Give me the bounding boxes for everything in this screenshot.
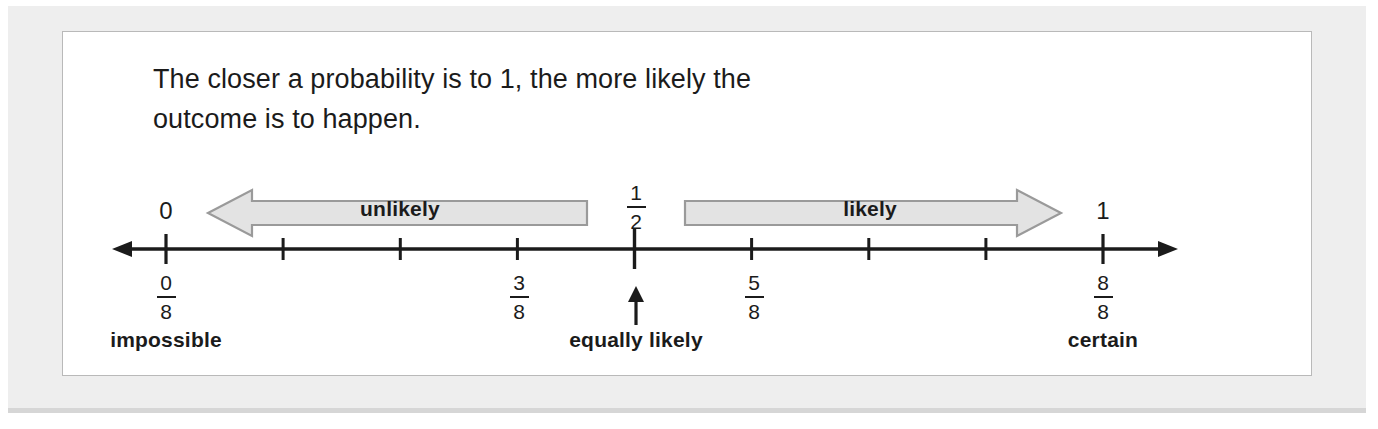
number-line-axis [110, 225, 1180, 273]
fraction-bar [1094, 296, 1113, 298]
axis-fraction-0-8: 0 8 [136, 272, 196, 322]
diagram-stage: unlikely likely 0 1 1 2 [0, 0, 1378, 429]
fraction-denominator: 8 [136, 301, 196, 322]
fraction-denominator: 8 [489, 301, 549, 322]
unlikely-band-label: unlikely [300, 197, 500, 221]
fraction-numerator: 3 [489, 272, 549, 294]
likely-band-label: likely [770, 197, 970, 221]
caption-equally-likely: equally likely [536, 328, 736, 352]
axis-fraction-8-8: 8 8 [1073, 272, 1133, 322]
fraction-numerator: 0 [136, 272, 196, 294]
fraction-numerator: 5 [724, 272, 784, 294]
probability-number-line-figure: The closer a probability is to 1, the mo… [0, 0, 1378, 429]
right-arrowhead-icon [1158, 241, 1178, 257]
up-arrow-icon [626, 285, 646, 325]
fraction-numerator: 1 [606, 182, 666, 204]
fraction-bar [627, 206, 646, 208]
fraction-bar [745, 296, 764, 298]
fraction-denominator: 8 [724, 301, 784, 322]
caption-impossible: impossible [66, 328, 266, 352]
caption-certain: certain [1003, 328, 1203, 352]
axis-fraction-3-8: 3 8 [489, 272, 549, 322]
left-arrowhead-icon [112, 241, 132, 257]
axis-fraction-5-8: 5 8 [724, 272, 784, 322]
fraction-bar [510, 296, 529, 298]
fraction-bar [157, 296, 176, 298]
fraction-numerator: 8 [1073, 272, 1133, 294]
fraction-denominator: 8 [1073, 301, 1133, 322]
axis-top-label-one: 1 [1073, 197, 1133, 225]
axis-top-label-zero: 0 [136, 197, 196, 225]
